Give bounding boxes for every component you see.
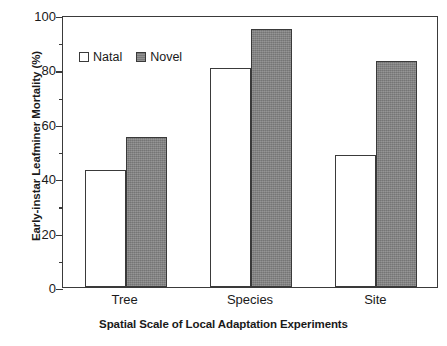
y-tick-minor xyxy=(59,99,63,100)
y-tick-label-80: 80 xyxy=(2,63,56,78)
x-tick-label-tree: Tree xyxy=(112,292,138,307)
legend-label-novel: Novel xyxy=(150,50,182,64)
y-axis-tick-labels: 0 20 40 60 80 100 xyxy=(0,0,56,346)
y-tick-major xyxy=(56,235,63,236)
y-tick-label-40: 40 xyxy=(2,172,56,187)
x-axis-tick-labels: Tree Species Site xyxy=(62,292,438,314)
y-tick-minor xyxy=(59,207,63,208)
bar-tree-novel xyxy=(126,137,167,287)
bar-species-novel xyxy=(251,29,292,287)
y-tick-minor xyxy=(59,262,63,263)
legend-item-novel: Novel xyxy=(136,50,182,64)
legend-swatch-novel-icon xyxy=(136,52,146,62)
bar-site-novel xyxy=(376,61,417,287)
y-tick-label-100: 100 xyxy=(2,9,56,24)
bar-species-natal xyxy=(210,68,251,287)
bar-site-natal xyxy=(335,155,376,287)
bar-tree-natal xyxy=(85,170,126,287)
y-tick-major xyxy=(56,71,63,72)
chart-legend: Natal Novel xyxy=(79,50,182,64)
y-tick-label-20: 20 xyxy=(2,226,56,241)
legend-item-natal: Natal xyxy=(79,50,122,64)
y-tick-major xyxy=(56,180,63,181)
y-tick-minor xyxy=(59,44,63,45)
plot-area: Natal Novel xyxy=(62,16,438,288)
x-tick-label-site: Site xyxy=(364,292,386,307)
y-tick-major xyxy=(56,126,63,127)
legend-label-natal: Natal xyxy=(93,50,122,64)
bar-chart-figure: Early-instar Leafminer Mortality (%) 0 2… xyxy=(0,0,447,346)
x-axis-title: Spatial Scale of Local Adaptation Experi… xyxy=(0,318,447,330)
y-tick-major xyxy=(56,17,63,18)
x-tick-label-species: Species xyxy=(227,292,273,307)
y-tick-label-60: 60 xyxy=(2,117,56,132)
y-tick-label-0: 0 xyxy=(2,281,56,296)
y-tick-minor xyxy=(59,153,63,154)
legend-swatch-natal-icon xyxy=(79,52,89,62)
y-tick-major xyxy=(56,289,63,290)
